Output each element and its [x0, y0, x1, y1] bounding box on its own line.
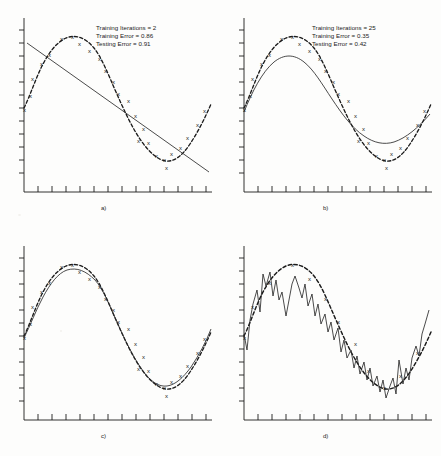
svg-text:x: x — [291, 34, 294, 40]
svg-text:x: x — [186, 363, 189, 369]
panel-b-testing-error: Testing Error = 0.42 — [312, 40, 376, 48]
svg-text:x: x — [163, 157, 166, 163]
svg-text:x: x — [385, 165, 388, 171]
panel-d-plot: xx xx xx xx xx xx — [220, 228, 440, 456]
svg-text:x: x — [383, 157, 386, 163]
panel-c: xx xx xx xx xx xx xx xx xx xx xx xx xx T… — [0, 228, 220, 456]
svg-text:x: x — [127, 98, 130, 104]
svg-text:x: x — [147, 140, 150, 146]
svg-text:x: x — [399, 145, 402, 151]
svg-text:x: x — [251, 304, 254, 310]
network-output-line — [27, 43, 209, 172]
panel-b: xx xx xx xx xx xx xx xx xx xx xx xx xx T… — [220, 0, 440, 228]
svg-text:x: x — [390, 151, 393, 157]
svg-text:x: x — [298, 41, 301, 47]
svg-text:x: x — [337, 91, 340, 97]
panel-b-iterations: Training Iterations = 25 — [312, 24, 376, 32]
svg-text:x: x — [268, 280, 271, 286]
svg-text:x: x — [60, 36, 63, 42]
svg-text:x: x — [196, 122, 199, 128]
svg-text:x: x — [165, 165, 168, 171]
svg-text:x: x — [127, 326, 130, 332]
svg-text:x: x — [362, 126, 365, 132]
svg-text:x: x — [98, 56, 101, 62]
svg-text:x: x — [142, 126, 145, 132]
svg-text:x: x — [399, 373, 402, 379]
svg-text:x: x — [354, 113, 357, 119]
figure-container: xx xx xx xx xx xx xx xx xx xx xx xx xx T… — [0, 0, 441, 456]
svg-text:x: x — [354, 341, 357, 347]
svg-text:x: x — [243, 335, 246, 341]
svg-text:x: x — [357, 138, 360, 144]
svg-text:x: x — [60, 264, 63, 270]
svg-text:x: x — [186, 135, 189, 141]
training-data-curve — [244, 36, 431, 161]
svg-text:x: x — [416, 350, 419, 356]
svg-text:x: x — [423, 108, 426, 114]
svg-text:x: x — [78, 41, 81, 47]
svg-text:x: x — [406, 135, 409, 141]
panel-d-label: d) — [323, 433, 328, 439]
svg-text:x: x — [71, 34, 74, 40]
svg-text:x: x — [324, 68, 327, 74]
network-output-oscillating — [244, 272, 429, 398]
svg-text:x: x — [251, 76, 254, 82]
svg-text:x: x — [142, 354, 145, 360]
svg-text:x: x — [112, 307, 115, 313]
panel-d: xx xx xx xx xx xx Training Iterations = … — [220, 228, 440, 456]
svg-text:x: x — [324, 296, 327, 302]
panel-b-label: b) — [323, 205, 328, 211]
panel-b-training-error: Training Error = 0.35 — [312, 32, 376, 40]
panel-a-testing-error: Testing Error = 0.91 — [96, 40, 156, 48]
svg-text:x: x — [31, 76, 34, 82]
svg-text:x: x — [170, 379, 173, 385]
panel-c-plot: xx xx xx xx xx xx xx xx xx xx xx xx xx — [0, 228, 220, 456]
svg-text:x: x — [332, 79, 335, 85]
svg-text:x: x — [48, 52, 51, 58]
svg-text:x: x — [179, 145, 182, 151]
panel-a: xx xx xx xx xx xx xx xx xx xx xx xx xx T… — [0, 0, 220, 228]
data-markers: xx xx xx xx xx xx — [243, 262, 419, 391]
panel-a-label: a) — [101, 205, 106, 211]
svg-text:x: x — [203, 108, 206, 114]
svg-text:x: x — [48, 280, 51, 286]
panel-a-iterations: Training Iterations = 2 — [96, 24, 156, 32]
svg-text:x: x — [165, 393, 168, 399]
svg-text:x: x — [78, 269, 81, 275]
svg-text:x: x — [98, 284, 101, 290]
panel-a-training-error: Training Error = 0.86 — [96, 32, 156, 40]
svg-text:x: x — [40, 61, 43, 67]
svg-text:x: x — [31, 304, 34, 310]
svg-text:x: x — [318, 56, 321, 62]
svg-text:x: x — [268, 52, 271, 58]
svg-text:x: x — [308, 276, 311, 282]
svg-text:x: x — [137, 366, 140, 372]
svg-text:x: x — [71, 262, 74, 268]
svg-text:x: x — [23, 107, 26, 113]
training-data-curve — [244, 264, 431, 389]
svg-text:x: x — [196, 350, 199, 356]
svg-text:x: x — [29, 321, 32, 327]
svg-text:x: x — [375, 153, 378, 159]
svg-text:x: x — [88, 48, 91, 54]
svg-text:x: x — [243, 107, 246, 113]
svg-text:x: x — [147, 368, 150, 374]
svg-text:x: x — [112, 79, 115, 85]
panel-c-label: c) — [101, 433, 106, 439]
svg-text:x: x — [134, 113, 137, 119]
svg-text:x: x — [88, 276, 91, 282]
data-markers: xx xx xx xx xx xx xx xx xx xx xx xx xx — [23, 262, 206, 399]
svg-text:x: x — [260, 61, 263, 67]
svg-text:x: x — [40, 289, 43, 295]
svg-text:x: x — [249, 93, 252, 99]
svg-text:x: x — [155, 153, 158, 159]
svg-text:x: x — [179, 373, 182, 379]
svg-text:x: x — [134, 341, 137, 347]
svg-text:x: x — [104, 68, 107, 74]
svg-text:x: x — [117, 319, 120, 325]
svg-text:x: x — [367, 140, 370, 146]
svg-text:x: x — [347, 98, 350, 104]
network-output-curve — [24, 269, 211, 386]
svg-text:x: x — [203, 336, 206, 342]
network-output-curve — [244, 56, 430, 143]
